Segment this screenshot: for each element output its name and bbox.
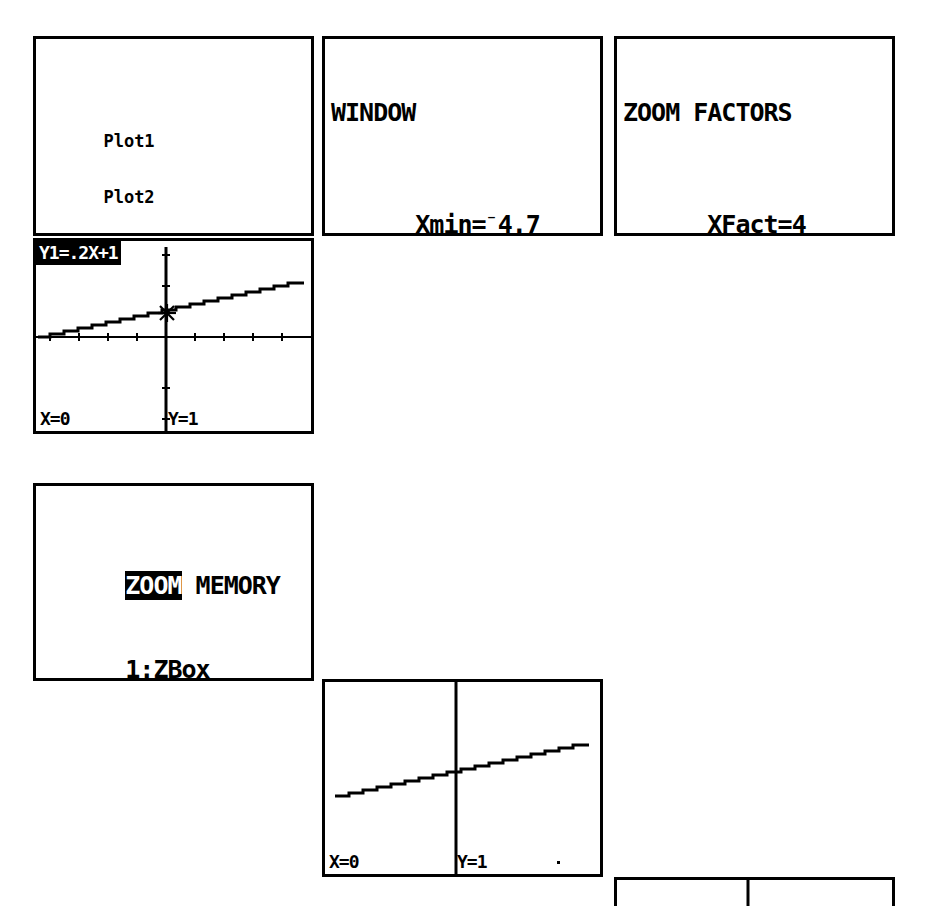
menu-item-number: 1: (125, 655, 153, 681)
graph-y-readout: Y=1 (168, 409, 198, 429)
zoom-menu-tabs[interactable]: ZOOM MEMORY (41, 544, 306, 572)
graph-x-readout: X=0 (329, 852, 359, 872)
plot-tab-1[interactable]: Plot1 (103, 131, 154, 151)
negative-sign: ⁻ (486, 209, 498, 233)
setting-label: Xmin (415, 210, 471, 236)
menu-item-label: ZBox (153, 655, 209, 681)
screen-zoom-factors[interactable]: ZOOM FACTORS XFact=4 YFact=4 (614, 36, 895, 236)
equals-sign: = (778, 210, 792, 236)
graph-plot-trace (36, 241, 311, 431)
stray-pixel (557, 861, 560, 864)
setting-value[interactable]: 4.7 (498, 210, 540, 236)
graph-header: Y1=.2X+1 (36, 241, 121, 265)
zoom-factor-xfact[interactable]: XFact=4 (623, 183, 886, 211)
plot-tab-2[interactable]: Plot2 (103, 187, 154, 207)
screen-y-editor[interactable]: Plot1 Plot2 Plot3 \Y1=.2X+1 \Y2= \Y3= \Y… (33, 36, 314, 236)
window-setting-xmin[interactable]: Xmin=⁻4.7 (331, 183, 594, 211)
graph-y-readout: Y=1 (457, 852, 487, 872)
tab-memory[interactable]: MEMORY (196, 571, 280, 600)
plot-tabs[interactable]: Plot1 Plot2 Plot3 (42, 99, 305, 127)
menu-item-zbox[interactable]: 1:ZBox (41, 628, 306, 656)
window-title: WINDOW (331, 99, 594, 127)
setting-value[interactable]: 4 (792, 210, 806, 236)
tab-gap (103, 159, 123, 179)
graph-plot-zoom-c (617, 880, 892, 906)
zoom-factors-title: ZOOM FACTORS (623, 99, 886, 127)
screen-graph-zoom-b[interactable]: X=0 Y=1 (322, 679, 603, 877)
tab-gap2 (103, 215, 123, 235)
screen-graph-zoom-c[interactable]: X=0 Y=1 (614, 877, 895, 906)
tab-zoom[interactable]: ZOOM (125, 571, 181, 600)
trace-cursor-star (158, 304, 176, 322)
equals-sign: = (472, 210, 486, 236)
screen-graph-trace[interactable]: Y1=.2X+1 X=0 Y=1 (33, 238, 314, 434)
screen-window[interactable]: WINDOW Xmin=⁻4.7 Xmax=4.7 Xscl=1 Ymin=⁻3… (322, 36, 603, 236)
screen-zoom-menu[interactable]: ZOOM MEMORY 1:ZBox 2:Zoom In 3:Zoom Out … (33, 483, 314, 681)
graph-x-readout: X=0 (40, 409, 70, 429)
setting-label: XFact (707, 210, 777, 236)
graph-plot-zoom-b (325, 682, 600, 874)
tab-gap (182, 571, 196, 600)
